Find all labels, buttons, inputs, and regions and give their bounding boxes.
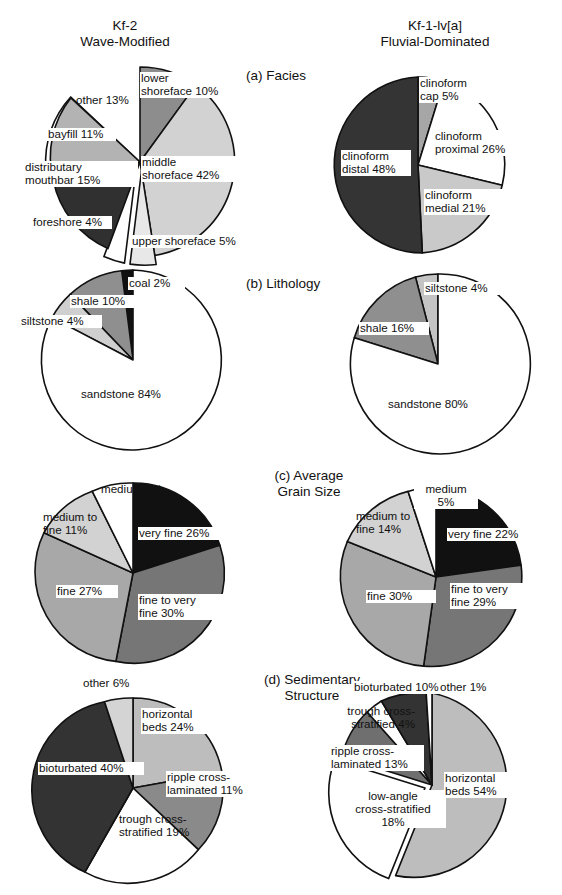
label-d-kf1-horizontal-beds: horizontal beds 54%	[444, 772, 524, 798]
label-d-kf2-ripple-cross-laminated: ripple cross- laminated 11%	[166, 771, 256, 797]
label-d-kf1-low-angle-cross-stratified: low-angle cross-stratified 18%	[340, 790, 446, 828]
label-d-kf2-horizontal-beds: horizontal beds 24%	[141, 708, 215, 734]
label-d-kf2-bioturbated: bioturbated 40%	[38, 762, 144, 775]
label-d-kf1-other: other 1%	[439, 681, 503, 694]
label-d-kf1-trough-cross-stratified: trough cross- stratified 4%	[322, 705, 416, 731]
label-d-kf1-ripple-cross-laminated: ripple cross- laminated 13%	[330, 745, 424, 771]
label-d-kf2-other: other 6%	[82, 677, 146, 690]
pie-chart-figure: Kf-2 Wave-Modified Kf-1-lv[a] Fluvial-Do…	[0, 0, 562, 895]
label-d-kf2-trough-cross-stratified: trough cross- stratified 19%	[118, 813, 215, 839]
